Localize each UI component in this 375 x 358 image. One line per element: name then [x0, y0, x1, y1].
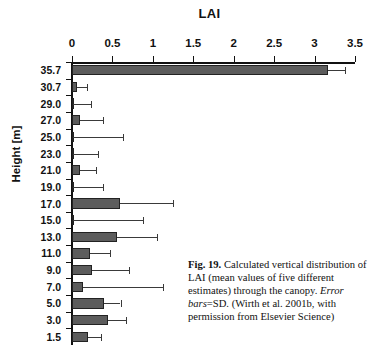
- y-tick-label: 7.0: [46, 281, 61, 293]
- error-bar-line: [77, 87, 87, 88]
- y-tick-label: 9.0: [46, 264, 61, 276]
- bar-row: [72, 65, 355, 75]
- x-tick-label: 0: [69, 37, 75, 49]
- caption-part-2: =SD. (Wirth et al. 2001b, with permissio…: [188, 298, 336, 322]
- x-tick: [355, 56, 356, 62]
- y-tick-label: 21.0: [41, 164, 61, 176]
- y-tick-label: 17.0: [41, 198, 61, 210]
- x-axis-line: [72, 62, 355, 64]
- error-bar-line: [117, 237, 157, 238]
- error-bar-cap: [101, 334, 102, 341]
- bar-row: [72, 332, 355, 342]
- error-bar-cap: [129, 267, 130, 274]
- bar-row: [72, 148, 355, 158]
- error-bar-cap: [110, 250, 111, 257]
- bar-row: [72, 165, 355, 175]
- error-bar-line: [104, 303, 120, 304]
- y-tick-label: 25.0: [41, 131, 61, 143]
- bar: [72, 65, 328, 75]
- x-tick-label: 1: [150, 37, 156, 49]
- error-bar-line: [80, 120, 103, 121]
- error-bar-line: [90, 253, 110, 254]
- bar-row: [72, 198, 355, 208]
- y-tick-label: 15.0: [41, 214, 61, 226]
- error-bar-cap: [87, 84, 88, 91]
- error-bar-line: [73, 104, 90, 105]
- y-tick-label: 5.0: [46, 297, 61, 309]
- error-bar-cap: [163, 284, 164, 291]
- error-bar-cap: [126, 317, 127, 324]
- bar: [72, 315, 108, 325]
- x-tick: [112, 56, 113, 62]
- bar-row: [72, 232, 355, 242]
- x-tick-label: 3: [311, 37, 317, 49]
- y-tick: [66, 262, 72, 263]
- y-tick: [66, 228, 72, 229]
- y-tick: [66, 162, 72, 163]
- bar-row: [72, 115, 355, 125]
- figure-19: LAI Height [m] 00.511.522.533.5 35.730.7…: [0, 0, 375, 358]
- error-bar-cap: [103, 117, 104, 124]
- x-tick: [315, 56, 316, 62]
- error-bar-cap: [143, 217, 144, 224]
- x-tick-label: 3.5: [347, 37, 363, 49]
- x-tick: [193, 56, 194, 62]
- y-tick: [66, 62, 72, 63]
- error-bar-cap: [121, 300, 122, 307]
- y-tick-label: 23.0: [41, 148, 61, 160]
- y-axis-label: Height [m]: [10, 104, 22, 204]
- chart-title-text: LAI: [199, 6, 221, 21]
- y-tick: [66, 179, 72, 180]
- chart-title: LAI: [0, 6, 375, 21]
- error-bar-line: [88, 337, 101, 338]
- error-bar-line: [80, 170, 96, 171]
- bar-row: [72, 82, 355, 92]
- error-bar-line: [120, 203, 173, 204]
- bar-row: [72, 132, 355, 142]
- figure-caption: Fig. 19. Calculated vertical distributio…: [188, 258, 370, 323]
- bar-row: [72, 215, 355, 225]
- y-tick-label: 1.5: [46, 331, 61, 343]
- y-tick-label: 29.0: [41, 98, 61, 110]
- y-tick-label: 13.0: [41, 231, 61, 243]
- error-bar-cap: [91, 101, 92, 108]
- x-tick-label: 2.5: [266, 37, 282, 49]
- error-bar-line: [73, 154, 98, 155]
- bar: [72, 232, 117, 242]
- y-tick: [66, 295, 72, 296]
- y-tick: [66, 195, 72, 196]
- y-tick-label: 30.7: [41, 81, 61, 93]
- bar: [72, 115, 80, 125]
- error-bar-line: [108, 320, 126, 321]
- y-tick: [66, 212, 72, 213]
- y-tick: [66, 112, 72, 113]
- error-bar-cap: [123, 134, 124, 141]
- error-bar-cap: [173, 200, 174, 207]
- bar: [72, 248, 90, 258]
- bar: [72, 165, 80, 175]
- y-tick-label: 27.0: [41, 114, 61, 126]
- y-tick-label: 19.0: [41, 181, 61, 193]
- x-tick: [234, 56, 235, 62]
- y-tick-label: 35.7: [41, 64, 61, 76]
- y-tick: [66, 328, 72, 329]
- x-tick-label: 0.5: [104, 37, 120, 49]
- y-tick: [66, 312, 72, 313]
- x-tick-label: 1.5: [185, 37, 201, 49]
- y-tick: [66, 79, 72, 80]
- bar: [72, 282, 83, 292]
- error-bar-cap: [157, 234, 158, 241]
- x-tick: [72, 56, 73, 62]
- y-tick: [66, 95, 72, 96]
- y-tick: [66, 245, 72, 246]
- x-tick: [274, 56, 275, 62]
- error-bar-line: [83, 287, 163, 288]
- x-tick: [153, 56, 154, 62]
- error-bar-cap: [103, 184, 104, 191]
- y-tick: [66, 129, 72, 130]
- bar: [72, 198, 120, 208]
- bar: [72, 332, 88, 342]
- y-tick-label: 11.0: [41, 247, 61, 259]
- error-bar-line: [92, 270, 128, 271]
- y-tick-label: 3.0: [46, 314, 61, 326]
